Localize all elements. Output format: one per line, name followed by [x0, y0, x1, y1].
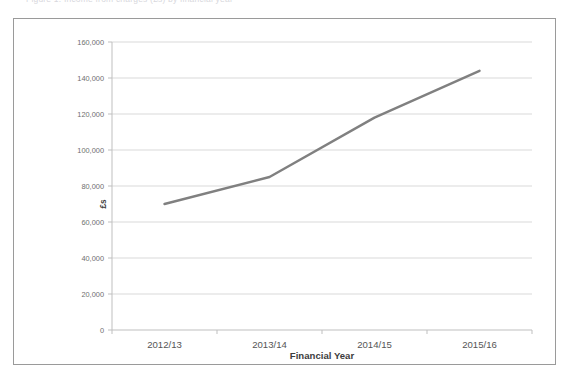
- y-axis-tick-label: 40,000: [81, 254, 104, 263]
- y-axis-ticks: 020,00040,00060,00080,000100,000120,0001…: [77, 38, 112, 335]
- x-axis-tick-label: 2014/15: [357, 339, 392, 350]
- y-axis-tick-label: 100,000: [77, 146, 104, 155]
- line-chart: 020,00040,00060,00080,000100,000120,0001…: [14, 19, 557, 366]
- y-axis-tick-label: 160,000: [77, 38, 104, 47]
- x-axis-tick-label: 2012/13: [147, 339, 182, 350]
- y-axis-tick-label: 0: [100, 326, 104, 335]
- y-axis-tick-label: 140,000: [77, 74, 104, 83]
- x-axis-tick-label: 2013/14: [252, 339, 287, 350]
- y-axis-title: £s: [99, 199, 108, 209]
- figure-caption: Figure 1: Income from charges (£s) by fi…: [26, 0, 566, 5]
- x-axis-ticks: 2012/132013/142014/152015/16: [112, 330, 532, 350]
- chart-canvas: 020,00040,00060,00080,000100,000120,0001…: [14, 19, 557, 366]
- y-axis-tick-label: 120,000: [77, 110, 104, 119]
- y-axis-tick-label: 80,000: [81, 182, 104, 191]
- screenshot-root: Figure 1: Income from charges (£s) by fi…: [0, 0, 587, 382]
- y-axis-tick-label: 20,000: [81, 290, 104, 299]
- x-axis-tick-label: 2015/16: [462, 339, 497, 350]
- figure-frame: 020,00040,00060,00080,000100,000120,0001…: [13, 18, 556, 365]
- y-axis-tick-label: 60,000: [81, 218, 104, 227]
- x-axis-title: Financial Year: [290, 350, 355, 361]
